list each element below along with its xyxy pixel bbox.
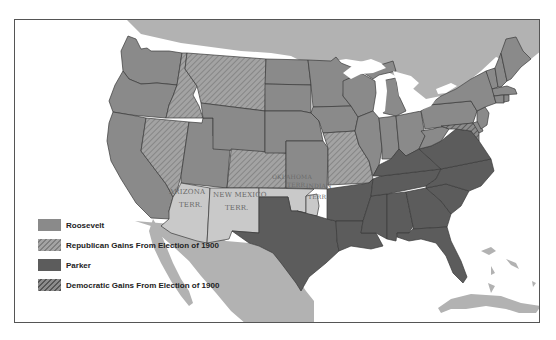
roosevelt-swatch: [38, 219, 61, 231]
parker-swatch: [38, 259, 61, 271]
legend-item-roosevelt: Roosevelt: [38, 215, 219, 235]
legend-label-parker: Parker: [66, 261, 91, 270]
state-connecticut: [494, 95, 504, 103]
legend-label-republican-gains: Republican Gains From Election of 1900: [66, 241, 219, 250]
legend-label-democratic-gains: Democratic Gains From Election of 1900: [66, 281, 219, 290]
state-washington: [121, 36, 182, 85]
legend-item-republican-gains: Republican Gains From Election of 1900: [38, 235, 219, 255]
arizona-label-terr: TERR.: [179, 201, 203, 209]
republican-gains-swatch: [38, 239, 61, 251]
state-colorado: [227, 149, 286, 188]
state-south-dakota: [265, 84, 311, 113]
new-mexico-label-terr: TERR.: [225, 204, 249, 212]
indian-label-terr: TERR.: [308, 193, 328, 200]
legend-label-roosevelt: Roosevelt: [66, 221, 104, 230]
state-rhode-island: [504, 95, 509, 102]
democratic-gains-swatch: [38, 279, 61, 291]
bahamas: [481, 247, 536, 293]
oklahoma-label: OKLAHOMA: [272, 173, 312, 180]
cuba: [438, 294, 540, 313]
state-north-dakota: [265, 59, 311, 85]
indian-label: INDIAN: [306, 182, 332, 189]
legend-item-democratic-gains: Democratic Gains From Election of 1900: [38, 275, 219, 295]
oklahoma-label-terr: TERR.: [287, 181, 307, 188]
state-florida: [397, 227, 467, 283]
legend-item-parker: Parker: [38, 255, 219, 275]
map-legend: Roosevelt Republican Gains From Election…: [38, 215, 219, 295]
arizona-label: ARIZONA: [168, 188, 206, 196]
new-mexico-label: NEW MEXICO: [213, 191, 267, 199]
